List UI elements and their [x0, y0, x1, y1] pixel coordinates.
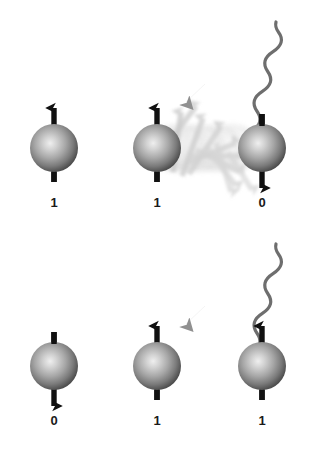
- qubit-bottom-right: [238, 326, 286, 400]
- qubit-sphere: [238, 124, 286, 172]
- qubit-label-top-middle: 1: [137, 196, 177, 210]
- qubit-label-top-left: 1: [34, 196, 74, 210]
- qubit-label-bottom-right: 1: [242, 414, 282, 428]
- qubit-bottom-middle: [133, 326, 181, 400]
- qubit-label-bottom-middle: 1: [137, 414, 177, 428]
- qubit-sphere: [133, 342, 181, 390]
- qubit-sphere: [133, 124, 181, 172]
- photon-arrowhead-icon: [186, 306, 205, 324]
- qubit-sphere: [30, 342, 78, 390]
- qubit-sphere: [238, 342, 286, 390]
- qubit-top-left: [30, 108, 78, 182]
- qubit-label-bottom-left: 0: [34, 414, 74, 428]
- qubit-label-top-right: 0: [242, 196, 282, 210]
- photon-arrowhead-icon: [186, 84, 205, 102]
- qubit-bottom-left: [30, 332, 78, 406]
- qubit-sphere: [30, 124, 78, 172]
- diagram-svg: [0, 0, 311, 451]
- diagram-canvas: 1 1 0 0 1 1: [0, 0, 311, 451]
